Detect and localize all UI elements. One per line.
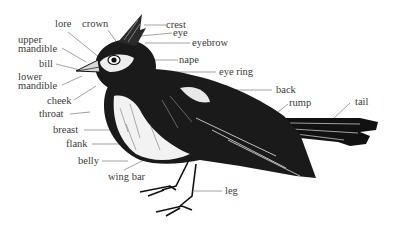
label-nape: nape [179, 55, 199, 65]
label-breast: breast [53, 125, 78, 135]
label-leg: leg [225, 186, 238, 196]
label-tail: tail [355, 97, 368, 107]
label-wing-bar: wing bar [108, 172, 145, 182]
label-upper-mandible: mandible [18, 44, 57, 54]
label-bill: bill [39, 59, 53, 69]
label-lower-mandible: mandible [18, 81, 57, 91]
label-eye: eye [173, 28, 188, 38]
label-back: back [276, 85, 296, 95]
label-eye-ring: eye ring [219, 67, 253, 77]
label-eyebrow: eyebrow [192, 38, 228, 48]
bird-anatomy-diagram: lore crown crest eye eyebrow upper mandi… [0, 0, 394, 230]
label-rump: rump [289, 98, 311, 108]
label-flank: flank [66, 139, 88, 149]
label-cheek: cheek [47, 96, 71, 106]
label-lore: lore [55, 19, 71, 29]
label-belly: belly [78, 156, 99, 166]
label-crown: crown [82, 19, 108, 29]
label-throat: throat [39, 109, 64, 119]
legs-shape [140, 162, 196, 216]
